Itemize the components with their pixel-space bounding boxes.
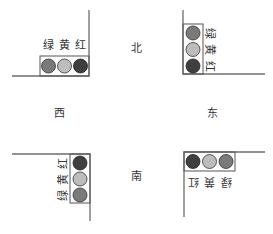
direction-west: 西: [54, 107, 65, 120]
signal-bottom-right: 红 黄 绿: [184, 152, 235, 189]
yellow-light-icon: [203, 155, 217, 169]
label-yellow: 黄: [59, 38, 70, 52]
direction-north: 北: [131, 42, 142, 55]
yellow-light-icon: [73, 172, 87, 186]
direction-south: 南: [131, 170, 142, 183]
label-green: 绿: [43, 38, 54, 52]
label-red: 红: [203, 61, 216, 72]
label-green: 绿: [56, 190, 70, 201]
label-green: 绿: [203, 28, 217, 39]
green-light-icon: [73, 188, 87, 202]
diagram-canvas: 绿 黄 红 绿 黄 红 红 黄 绿: [0, 0, 273, 234]
red-light-icon: [186, 59, 200, 73]
label-red: 红: [188, 175, 199, 188]
green-light-icon: [186, 26, 200, 40]
red-light-icon: [186, 155, 200, 169]
label-green: 绿: [221, 175, 232, 189]
red-light-icon: [73, 156, 87, 170]
green-light-icon: [219, 155, 233, 169]
intersection-diagram: 绿 黄 红 绿 黄 红 红 黄 绿: [0, 0, 273, 234]
yellow-light-icon: [186, 43, 200, 57]
label-yellow: 黄: [56, 174, 70, 185]
red-light-icon: [74, 59, 88, 73]
label-red: 红: [57, 158, 70, 169]
signal-top-left: 绿 黄 红: [40, 38, 89, 76]
direction-east: 东: [207, 107, 218, 120]
label-red: 红: [75, 39, 86, 52]
signal-top-right: 绿 黄 红: [183, 24, 217, 74]
green-light-icon: [42, 59, 56, 73]
label-yellow: 黄: [204, 175, 215, 189]
signal-bottom-left: 红 黄 绿: [56, 154, 90, 203]
yellow-light-icon: [58, 59, 72, 73]
label-yellow: 黄: [203, 44, 217, 55]
